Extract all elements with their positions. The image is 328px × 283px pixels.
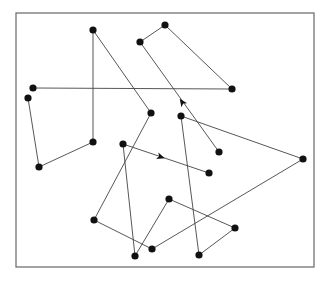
edge-n11-n12 [169,199,235,228]
edge-n9-n10 [181,116,199,255]
node-n2 [35,163,42,170]
edge-n5-n6 [94,113,151,220]
edge-n6-n7 [94,220,152,249]
node-n18 [161,21,168,28]
edge-layer [28,25,303,256]
edge-n2-n3 [39,142,93,167]
node-n19 [136,38,143,45]
node-n6 [90,216,97,223]
node-n12 [165,195,172,202]
edge-n17-n18 [165,25,232,89]
path-diagram [0,0,328,283]
node-n13 [131,252,138,259]
edge-n13-n14 [123,144,135,256]
edge-n10-n11 [199,228,235,255]
node-n9 [177,112,184,119]
node-n3 [89,138,96,145]
node-n7 [148,245,155,252]
edge-n8-n9 [181,116,303,159]
node-n14 [119,140,126,147]
node-n4 [89,26,96,33]
node-n17 [228,85,235,92]
node-n8 [299,155,306,162]
node-n15 [205,169,212,176]
node-layer [24,21,306,259]
edge-n18-n19 [140,25,165,42]
node-n20 [215,148,222,155]
node-n11 [231,224,238,231]
node-n5 [147,109,154,116]
node-n1 [24,94,31,101]
edge-n14-n15 [123,144,209,173]
diagram-frame [16,13,314,267]
edge-n1-n2 [28,98,39,167]
edge-n16-n17 [33,88,232,89]
diagram-canvas [0,0,328,283]
node-n10 [195,251,202,258]
edge-n20-n19 [140,42,219,152]
node-n16 [29,84,36,91]
edge-n7-n8 [152,159,303,249]
